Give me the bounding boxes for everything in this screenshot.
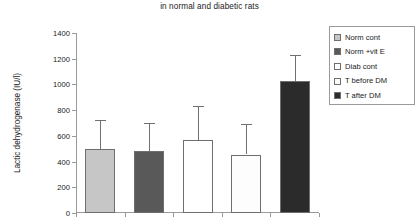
- y-axis-tick-mark: [72, 162, 76, 163]
- error-bar-stem: [149, 123, 150, 151]
- legend-item-label: Norm cont: [345, 34, 380, 42]
- x-axis-tick-mark: [76, 213, 77, 217]
- error-bar-stem: [198, 106, 199, 141]
- legend-item[interactable]: Diab cont: [334, 59, 411, 74]
- chart-container: in normal and diabetic rats Lactic dehyd…: [0, 0, 419, 224]
- y-axis-tick-mark: [72, 33, 76, 34]
- error-bar-cap: [290, 55, 301, 56]
- y-axis-tick-mark: [72, 187, 76, 188]
- bar: [183, 140, 213, 213]
- y-axis-tick-label: 800: [57, 106, 70, 115]
- y-axis-tick-mark: [72, 110, 76, 111]
- legend-item[interactable]: Norm cont: [334, 30, 411, 45]
- plot-area: 0200400600800100012001400: [76, 33, 319, 213]
- legend-item[interactable]: T after DM: [334, 88, 411, 103]
- y-axis-tick-label: 0: [66, 209, 70, 218]
- error-bar-cap: [193, 106, 204, 107]
- legend-swatch-icon: [334, 92, 341, 99]
- bar: [280, 81, 310, 213]
- bar: [134, 151, 164, 213]
- error-bar-cap: [95, 120, 106, 121]
- y-axis-tick-mark: [72, 59, 76, 60]
- legend-item-label: T after DM: [345, 92, 381, 100]
- legend-swatch-icon: [334, 63, 341, 70]
- y-axis-tick-mark: [72, 136, 76, 137]
- error-bar-stem: [246, 124, 247, 154]
- legend-swatch-icon: [334, 78, 341, 85]
- x-axis-tick-mark: [125, 213, 126, 217]
- legend-item-label: Diab cont: [345, 63, 377, 71]
- x-axis-tick-mark: [270, 213, 271, 217]
- y-axis-tick-label: 400: [57, 157, 70, 166]
- x-axis-tick-mark: [222, 213, 223, 217]
- x-axis-tick-mark: [173, 213, 174, 217]
- bar: [231, 155, 261, 214]
- y-axis-tick-mark: [72, 84, 76, 85]
- y-axis-tick-label: 1000: [53, 80, 70, 89]
- bar: [85, 149, 115, 213]
- y-axis-tick-label: 1400: [53, 29, 70, 38]
- x-axis-tick-mark: [319, 213, 320, 217]
- y-axis-title: Lactic dehydrogenase (IU/l): [13, 33, 25, 213]
- chart-legend: Norm contNorm +vit EDiab contT before DM…: [329, 26, 415, 105]
- chart-title: in normal and diabetic rats: [0, 2, 419, 11]
- error-bar-stem: [295, 55, 296, 81]
- y-axis-tick-label: 1200: [53, 54, 70, 63]
- legend-item[interactable]: T before DM: [334, 74, 411, 89]
- error-bar-cap: [144, 123, 155, 124]
- y-axis-tick-label: 200: [57, 183, 70, 192]
- y-axis-tick-label: 600: [57, 131, 70, 140]
- legend-swatch-icon: [334, 48, 341, 55]
- legend-item-label: T before DM: [345, 77, 387, 85]
- y-axis-line: [76, 33, 77, 213]
- error-bar-cap: [241, 124, 252, 125]
- legend-item[interactable]: Norm +vit E: [334, 45, 411, 60]
- legend-item-label: Norm +vit E: [345, 48, 385, 56]
- error-bar-stem: [100, 120, 101, 148]
- legend-swatch-icon: [334, 34, 341, 41]
